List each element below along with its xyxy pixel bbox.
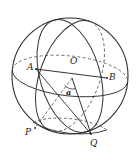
- sphere-diagram-svg: [0, 0, 139, 157]
- geometry-figure: A O B P Q a: [0, 0, 139, 157]
- label-point-q: Q: [90, 139, 97, 148]
- label-angle-a: a: [66, 88, 71, 96]
- point-marker-q: [90, 133, 92, 135]
- label-point-o: O: [70, 57, 77, 66]
- great-circle-tilted-right-back: [50, 21, 118, 140]
- point-marker-p: [34, 127, 36, 129]
- label-point-b: B: [109, 73, 116, 82]
- point-marker-a: [35, 68, 37, 70]
- point-marker-b: [106, 77, 108, 79]
- label-point-p: P: [25, 128, 31, 137]
- chord-ab: [36, 69, 107, 78]
- label-point-a: A: [27, 63, 34, 72]
- segment-oq: [72, 78, 91, 134]
- segment-op: [35, 78, 72, 128]
